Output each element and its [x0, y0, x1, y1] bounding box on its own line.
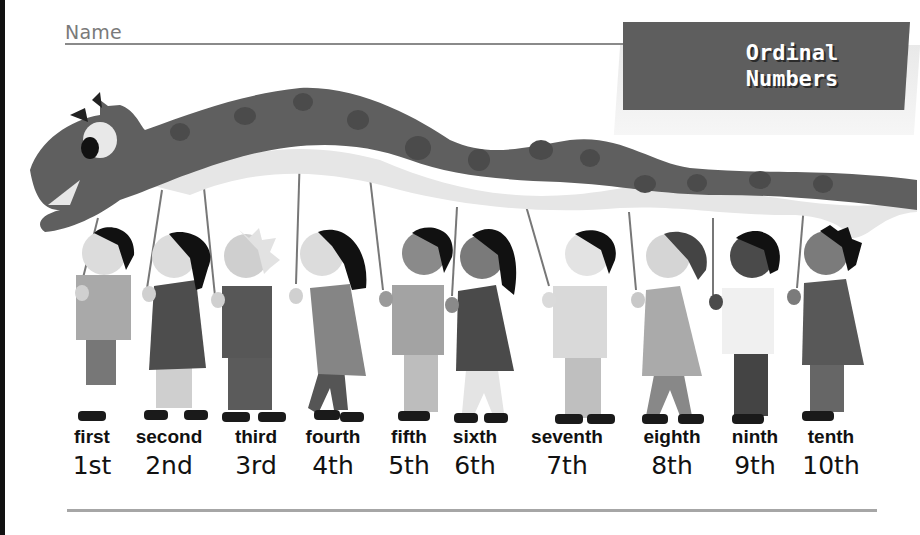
ordinal-9: ninth 9th: [732, 426, 778, 480]
ordinal-3: third 3rd: [235, 426, 277, 480]
child-9: [709, 231, 780, 424]
ordinal-number: 6th: [453, 451, 497, 480]
children: [75, 225, 864, 424]
ordinal-word: first: [73, 426, 112, 448]
ordinal-number: 4th: [306, 451, 361, 480]
ordinal-number: 1st: [73, 451, 112, 480]
ordinal-number: 9th: [732, 451, 778, 480]
child-3: [211, 228, 286, 422]
ordinal-number: 3rd: [235, 451, 277, 480]
ordinal-7: seventh 7th: [531, 426, 603, 480]
ordinal-word: ninth: [732, 426, 778, 448]
child-8: [631, 232, 707, 424]
ordinal-word: second: [136, 426, 203, 448]
ordinal-number: 2nd: [136, 451, 203, 480]
ordinal-word: third: [235, 426, 277, 448]
ordinal-1: first 1st: [73, 426, 112, 480]
ordinal-number: 7th: [531, 451, 603, 480]
ordinal-word: fourth: [306, 426, 361, 448]
child-10: [787, 225, 864, 421]
ordinal-word: seventh: [531, 426, 603, 448]
ordinal-8: eighth 8th: [644, 426, 701, 480]
ordinal-number: 10th: [802, 451, 859, 480]
child-7: [542, 230, 616, 424]
dragon-parade-illustration: [0, 0, 917, 430]
ordinal-word: tenth: [802, 426, 859, 448]
ordinal-2: second 2nd: [136, 426, 203, 480]
ordinal-number: 8th: [644, 451, 701, 480]
child-4: [289, 230, 366, 422]
ordinal-5: fifth 5th: [388, 426, 430, 480]
ordinal-word: eighth: [644, 426, 701, 448]
ordinal-word: sixth: [453, 426, 497, 448]
bottom-divider: [67, 509, 877, 512]
child-5: [379, 228, 453, 421]
ordinal-number: 5th: [388, 451, 430, 480]
child-1: [75, 227, 134, 421]
ordinal-6: sixth 6th: [453, 426, 497, 480]
ordinal-word: fifth: [388, 426, 430, 448]
child-6: [445, 229, 516, 423]
ordinal-labels: first 1st second 2nd third 3rd fourth 4t…: [0, 426, 917, 496]
ordinal-4: fourth 4th: [306, 426, 361, 480]
ordinal-10: tenth 10th: [802, 426, 859, 480]
